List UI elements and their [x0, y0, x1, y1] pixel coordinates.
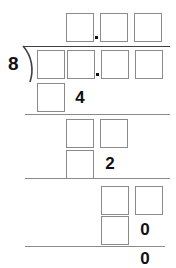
- quotient-box-2[interactable]: [100, 13, 128, 42]
- bring-down-2-box-1[interactable]: [101, 186, 129, 215]
- division-vinculum: [23, 46, 170, 47]
- long-division-worksheet: 8 4 2 0 0: [0, 0, 176, 268]
- dividend-box-1[interactable]: [37, 50, 65, 79]
- divisor-value: 8: [8, 54, 19, 73]
- bring-down-1-box-2[interactable]: [100, 119, 128, 148]
- remainder-value: 0: [135, 250, 155, 267]
- subtract-2-digit-1: 2: [100, 155, 120, 172]
- step-rule-2: [25, 178, 170, 179]
- subtract-1-digit-1: 4: [70, 89, 90, 106]
- bring-down-2-box-2[interactable]: [135, 186, 163, 215]
- subtract-3-box-1[interactable]: [101, 216, 129, 245]
- dividend-box-2[interactable]: [67, 50, 95, 79]
- subtract-3-digit-1: 0: [135, 221, 155, 238]
- step-rule-1: [25, 114, 170, 115]
- subtract-2-box-1[interactable]: [66, 150, 94, 179]
- dividend-box-3[interactable]: [101, 50, 129, 79]
- quotient-decimal-point: [95, 36, 98, 39]
- subtract-1-box-1[interactable]: [37, 83, 65, 112]
- bring-down-1-box-1[interactable]: [66, 119, 94, 148]
- dividend-decimal-point: [96, 73, 99, 76]
- step-rule-3: [25, 246, 165, 247]
- quotient-box-1[interactable]: [66, 13, 94, 42]
- quotient-box-3[interactable]: [134, 13, 162, 42]
- dividend-box-4[interactable]: [135, 50, 163, 79]
